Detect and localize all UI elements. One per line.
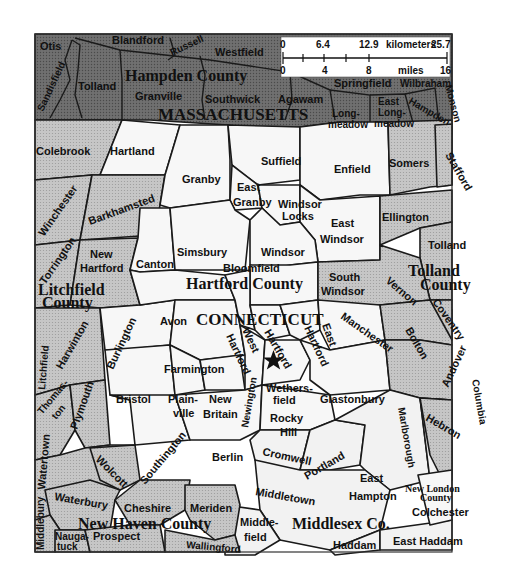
scale-bar: 0 6.4 12.9 kilometers 25.7 0 4 8 miles 1…	[280, 37, 452, 77]
town-label-hartland: Hartland	[110, 145, 155, 157]
county-label-litchfield-2: County	[42, 294, 93, 312]
town-label-new-hartford-2: Hartford	[80, 262, 123, 274]
town-label-east-granby-2: Granby	[233, 196, 272, 208]
town-label-east-granby-1: East	[237, 181, 261, 193]
town-label-granville: Granville	[135, 90, 182, 102]
town-label-rocky-hill-2: Hill	[280, 426, 297, 438]
town-label-glastonbury: Glastonbury	[320, 393, 386, 405]
town-label-southwick: Southwick	[205, 93, 261, 105]
town-label-tolland-ct: Tolland	[428, 239, 466, 251]
town-label-windsor-locks-2: Locks	[282, 210, 314, 222]
town-label-new-hartford-1: New	[90, 248, 113, 260]
state-label-connecticut: CONNECTICUT	[196, 310, 324, 329]
connecticut-map: 0 6.4 12.9 kilometers 25.7 0 4 8 miles 1…	[0, 0, 507, 580]
town-label-avon: Avon	[160, 315, 187, 327]
town-label-simsbury: Simsbury	[177, 246, 228, 258]
town-label-rocky-hill-1: Rocky	[270, 412, 304, 424]
town-label-longmeadow-1: Long-	[332, 108, 360, 119]
town-label-new-britain-2: Britain	[203, 408, 238, 420]
scale-km-tick-2: 12.9	[359, 39, 379, 50]
town-label-windsor-locks-1: Windsor	[278, 198, 323, 210]
scale-mile-unit: miles	[398, 65, 424, 76]
town-label-plainville-2: ville	[173, 407, 194, 419]
town-label-suffield: Suffield	[261, 155, 301, 167]
scale-km-tick-3: 25.7	[431, 39, 451, 50]
scale-km-unit: kilometers	[386, 39, 436, 50]
town-label-agawam: Agawam	[278, 93, 323, 105]
town-label-south-windsor-2: Windsor	[321, 285, 366, 297]
town-label-canton: Canton	[136, 258, 174, 270]
town-label-berlin: Berlin	[212, 451, 243, 463]
state-label-massachusetts: MASSACHUSETTS	[158, 105, 308, 124]
town-label-ellington: Ellington	[382, 211, 429, 223]
county-label-tolland-2: County	[420, 276, 471, 294]
town-label-enfield: Enfield	[334, 163, 371, 175]
town-label-tolland-ma: Tolland	[78, 80, 116, 92]
town-label-granby: Granby	[182, 173, 221, 185]
town-label-haddam: Haddam	[333, 539, 377, 551]
town-label-otis: Otis	[40, 40, 61, 52]
scale-mile-tick-1: 4	[322, 65, 328, 76]
scale-km-tick-0: 0	[280, 39, 286, 50]
town-label-south-windsor-1: South	[329, 271, 360, 283]
town-label-east-hampton-1: East	[360, 472, 384, 484]
scale-mile-tick-3: 16	[440, 65, 452, 76]
town-label-plainville-1: Plain-	[168, 393, 198, 405]
town-label-westfield: Westfield	[215, 46, 264, 58]
town-label-wethersfield-2: field	[273, 394, 296, 406]
county-label-middlesex: Middlesex Co.	[292, 515, 390, 532]
town-label-new-london-county-2: County	[420, 492, 452, 503]
town-label-middlebury: Middlebury	[35, 496, 46, 550]
town-label-columbia: Columbia	[470, 378, 489, 425]
town-label-east-windsor-1: East	[331, 217, 355, 229]
town-label-naugatuck-2: tuck	[57, 541, 78, 552]
scale-mile-tick-2: 8	[366, 65, 372, 76]
scale-mile-tick-0: 0	[280, 65, 286, 76]
town-label-windsor: Windsor	[261, 246, 306, 258]
county-label-hartford: Hartford County	[186, 275, 303, 293]
town-label-farmington: Farmington	[164, 363, 225, 375]
town-label-colebrook: Colebrook	[36, 145, 91, 157]
town-label-longmeadow-2: meadow	[328, 119, 368, 130]
town-label-somers: Somers	[389, 157, 429, 169]
town-label-east-haddam: East Haddam	[393, 535, 463, 547]
town-label-wethersfield-1: Wethers-	[266, 382, 313, 394]
town-label-prospect: Prospect	[93, 530, 140, 542]
town-label-new-britain-1: New	[209, 393, 232, 405]
scale-km-tick-1: 6.4	[316, 39, 330, 50]
town-label-bloomfield: Bloomfield	[223, 262, 280, 274]
town-label-east-windsor-2: Windsor	[320, 233, 365, 245]
town-label-blandford: Blandford	[112, 34, 164, 46]
town-label-meriden: Meriden	[190, 502, 232, 514]
town-label-east-longmeadow-2: Long-	[378, 107, 406, 118]
town-label-east-hampton-2: Hampton	[349, 490, 397, 502]
town-label-east-longmeadow-1: East	[378, 96, 400, 107]
town-label-middlefield-2: field	[244, 531, 267, 543]
town-label-colchester: Colchester	[412, 506, 470, 518]
town-label-cheshire: Cheshire	[124, 502, 171, 514]
county-label-hampden: Hampden County	[125, 67, 247, 85]
town-label-east-longmeadow-3: meadow	[374, 118, 414, 129]
town-label-bristol: Bristol	[116, 393, 151, 405]
town-label-springfield: Springfield	[334, 77, 391, 89]
town-label-middlefield-1: Middle-	[240, 516, 279, 528]
